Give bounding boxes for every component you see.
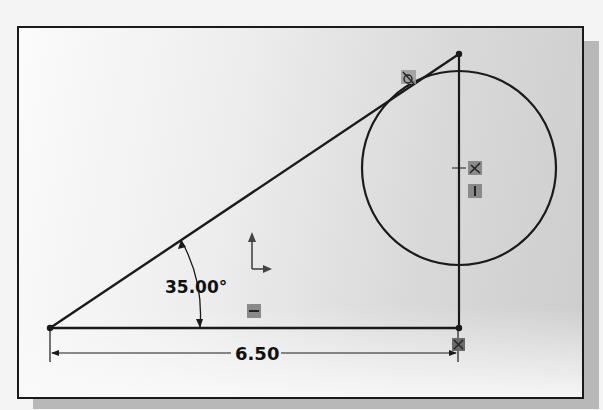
vertical-relation-icon[interactable] [468, 184, 482, 198]
sketch-point-top[interactable] [456, 51, 462, 57]
sketch-canvas: 35.00° 6.50 [0, 0, 603, 410]
length-arrow-left [51, 350, 59, 356]
coincident-point-relation-icon[interactable] [452, 338, 465, 351]
origin-axes-icon [248, 232, 272, 273]
length-dimension-label[interactable]: 6.50 [235, 343, 279, 364]
horizontal-relation-icon[interactable] [247, 304, 261, 318]
tangent-relation-icon[interactable] [401, 70, 416, 84]
angle-arrow-bottom [196, 319, 203, 328]
coincident-relation-icon[interactable] [468, 161, 482, 175]
sketch-point-bottom-right[interactable] [456, 325, 462, 331]
sketch-line-hypotenuse[interactable] [50, 54, 459, 328]
angle-dimension-label[interactable]: 35.00° [165, 277, 227, 297]
